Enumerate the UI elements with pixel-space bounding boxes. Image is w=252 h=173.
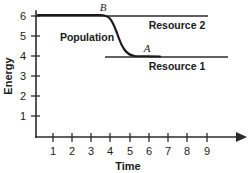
x-tick-label-2: 2 — [69, 145, 75, 157]
x-tick-label-6: 6 — [146, 145, 152, 157]
x-axis-arrow-icon — [236, 132, 247, 142]
y-tick-label-6: 6 — [20, 10, 26, 22]
x-tick-label-9: 9 — [204, 145, 210, 157]
y-tick-label-1: 1 — [20, 110, 26, 122]
x-axis-title: Time — [115, 160, 140, 172]
chart-canvas: 6 5 4 3 2 1 1 2 3 4 5 6 7 8 9 Resource 2 — [0, 0, 252, 173]
x-tick-label-4: 4 — [107, 145, 113, 157]
x-tick-label-5: 5 — [127, 145, 133, 157]
x-tick-label-1: 1 — [50, 145, 56, 157]
y-tick-label-4: 4 — [20, 50, 26, 62]
y-tick-label-3: 3 — [20, 70, 26, 82]
x-tick-label-8: 8 — [184, 145, 190, 157]
population-label: Population — [60, 31, 114, 43]
resource-1-label: Resource 1 — [149, 60, 206, 72]
y-tick-label-2: 2 — [20, 90, 26, 102]
energy-time-chart: 6 5 4 3 2 1 1 2 3 4 5 6 7 8 9 Resource 2 — [0, 0, 252, 173]
y-axis-title: Energy — [2, 56, 14, 94]
x-tick-label-3: 3 — [88, 145, 94, 157]
annotation-a: A — [143, 42, 151, 54]
y-tick-label-5: 5 — [20, 30, 26, 42]
x-tick-label-7: 7 — [165, 145, 171, 157]
resource-2-label: Resource 2 — [149, 19, 206, 31]
annotation-b: B — [100, 1, 107, 13]
